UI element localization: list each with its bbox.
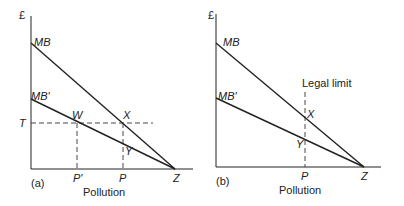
mb-curve xyxy=(216,43,364,167)
point-y-label: Y xyxy=(125,145,133,157)
y-axis-label: £ xyxy=(19,9,25,21)
tick-z: Z xyxy=(172,172,181,184)
mb-label: MB xyxy=(34,36,51,48)
panel-tag: (a) xyxy=(31,177,44,189)
point-x-label: X xyxy=(122,109,131,121)
mb-prime-curve xyxy=(216,98,364,167)
tick-p: P xyxy=(301,170,309,182)
mb-curve xyxy=(31,43,175,169)
tick-p: P xyxy=(119,172,127,184)
mb-prime-curve xyxy=(31,99,175,169)
point-x-label: X xyxy=(306,108,315,120)
point-w-label: W xyxy=(72,109,84,121)
mb-label: MB xyxy=(223,36,240,48)
tick-z: Z xyxy=(360,170,369,182)
tick-p-prime: P' xyxy=(73,172,83,184)
y-axis-label: £ xyxy=(208,9,214,21)
x-axis-label: Pollution xyxy=(279,184,321,196)
panel-b: £ MB MB' Legal limit X Y P Z (b) Polluti… xyxy=(208,9,381,196)
pollution-diagram: £ MB MB' T W X Y P' P Z (a) Pollution £ … xyxy=(0,0,404,206)
mb-prime-label: MB' xyxy=(31,90,51,102)
tax-label: T xyxy=(19,117,27,129)
mb-prime-label: MB' xyxy=(218,90,238,102)
x-axis-label: Pollution xyxy=(83,186,125,198)
legal-limit-label: Legal limit xyxy=(302,77,352,89)
point-y-label: Y xyxy=(296,138,304,150)
panel-a: £ MB MB' T W X Y P' P Z (a) Pollution xyxy=(19,9,193,198)
panel-tag: (b) xyxy=(216,175,229,187)
